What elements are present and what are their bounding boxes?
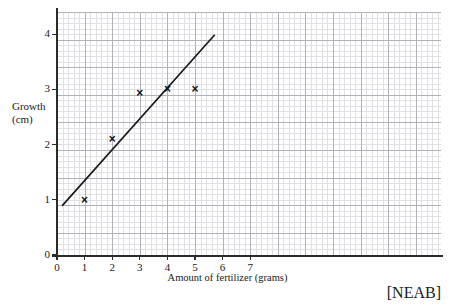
- data-point-marker: ×: [164, 82, 171, 96]
- trend-line: [63, 35, 215, 205]
- x-axis-tick: [139, 255, 140, 260]
- source-credit: [NEAB]: [387, 284, 441, 302]
- x-axis-tick: [194, 255, 195, 260]
- y-axis-label: Growth (cm): [12, 100, 46, 126]
- data-point-marker: ×: [136, 86, 143, 100]
- x-axis-tick: [222, 255, 223, 260]
- x-axis-tick: [56, 255, 57, 260]
- data-point-marker: ×: [109, 132, 116, 146]
- y-axis-tick-label: 4: [36, 27, 50, 39]
- y-axis-line: [56, 8, 58, 257]
- y-axis-label-line-2: (cm): [12, 113, 46, 126]
- y-axis-tick-label: 2: [36, 138, 50, 150]
- y-axis-tick-label: 3: [36, 82, 50, 94]
- data-point-markers: ×××××: [81, 82, 198, 206]
- plot-area: ×××××: [57, 12, 441, 255]
- data-point-marker: ×: [81, 193, 88, 207]
- y-axis-tick: [52, 34, 57, 35]
- x-axis-tick: [84, 255, 85, 260]
- y-axis-label-line-1: Growth: [12, 100, 46, 113]
- y-axis-tick: [52, 144, 57, 145]
- y-axis-tick-label: 1: [36, 193, 50, 205]
- x-axis-label: Amount of fertilizer (grams): [0, 272, 455, 283]
- y-axis-tick: [52, 89, 57, 90]
- data-point-marker: ×: [191, 82, 198, 96]
- y-axis-tick-label: 0: [36, 248, 50, 260]
- x-axis-tick: [250, 255, 251, 260]
- y-axis-tick: [52, 199, 57, 200]
- chart-page: ××××× 0123401234567 Growth (cm) Amount o…: [0, 0, 455, 306]
- data-layer: ×××××: [57, 12, 441, 255]
- x-axis-tick: [112, 255, 113, 260]
- x-axis-tick: [167, 255, 168, 260]
